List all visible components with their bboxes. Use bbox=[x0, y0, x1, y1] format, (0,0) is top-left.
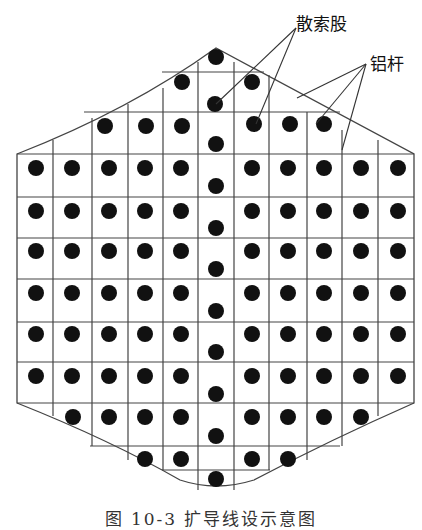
strand-dot bbox=[208, 261, 224, 277]
strand-dot bbox=[390, 285, 406, 301]
strand-dot bbox=[138, 118, 154, 134]
strand-dot bbox=[353, 243, 369, 259]
strand-dot bbox=[316, 160, 332, 176]
strand-dot bbox=[244, 203, 260, 219]
strand-dot bbox=[208, 49, 224, 65]
strand-dot bbox=[137, 285, 153, 301]
strand-dot bbox=[101, 409, 117, 425]
strand-dot bbox=[353, 368, 369, 384]
strand-dot bbox=[173, 243, 189, 259]
strand-dot bbox=[208, 428, 224, 444]
strand-dot bbox=[280, 285, 296, 301]
strand-dot bbox=[390, 160, 406, 176]
strand-dot bbox=[390, 326, 406, 342]
strand-dot bbox=[137, 368, 153, 384]
strand-dot bbox=[316, 326, 332, 342]
strand-dot bbox=[208, 303, 224, 319]
strand-dot bbox=[390, 243, 406, 259]
strand-dot bbox=[28, 285, 44, 301]
figure-caption: 图 10-3 扩导线设示意图 bbox=[0, 505, 422, 530]
strand-dot bbox=[280, 160, 296, 176]
strand-dot bbox=[64, 368, 80, 384]
strand-dot bbox=[174, 118, 190, 134]
strand-dot bbox=[280, 451, 296, 467]
wire-strands bbox=[28, 49, 406, 487]
strand-dot bbox=[28, 368, 44, 384]
leader-rod-1 bbox=[297, 64, 366, 98]
strand-dot bbox=[353, 285, 369, 301]
conductor-cross-section-diagram bbox=[0, 0, 422, 500]
strand-dot bbox=[244, 74, 260, 90]
leader-strand-1 bbox=[216, 28, 296, 104]
strand-dot bbox=[353, 160, 369, 176]
strand-dot bbox=[173, 203, 189, 219]
strand-dot bbox=[173, 160, 189, 176]
strand-dot bbox=[390, 368, 406, 384]
strand-dot bbox=[101, 326, 117, 342]
strand-dot bbox=[280, 409, 296, 425]
strand-dot bbox=[353, 203, 369, 219]
strand-dot bbox=[174, 74, 190, 90]
strand-dot bbox=[101, 368, 117, 384]
strand-dot bbox=[208, 386, 224, 402]
strand-dot bbox=[244, 409, 260, 425]
strand-dot bbox=[244, 451, 260, 467]
strand-dot bbox=[208, 471, 224, 487]
strand-dot bbox=[101, 285, 117, 301]
strand-dot bbox=[64, 285, 80, 301]
strand-dot bbox=[64, 326, 80, 342]
strand-dot bbox=[390, 203, 406, 219]
strand-dot bbox=[173, 326, 189, 342]
strand-dot bbox=[64, 243, 80, 259]
strand-dot bbox=[244, 285, 260, 301]
strand-dot bbox=[28, 203, 44, 219]
strand-dot bbox=[316, 203, 332, 219]
strand-dot bbox=[101, 243, 117, 259]
strand-dot bbox=[101, 160, 117, 176]
strand-dot bbox=[97, 118, 113, 134]
strand-dot bbox=[208, 344, 224, 360]
strand-dot bbox=[137, 326, 153, 342]
strand-dot bbox=[208, 220, 224, 236]
strand-dot bbox=[64, 203, 80, 219]
strand-dot bbox=[137, 160, 153, 176]
strand-dot bbox=[316, 116, 332, 132]
strand-dot bbox=[173, 285, 189, 301]
strand-dot bbox=[282, 116, 298, 132]
strand-dot bbox=[65, 409, 81, 425]
strand-dot bbox=[244, 368, 260, 384]
strand-dot bbox=[173, 451, 189, 467]
strand-dot bbox=[244, 243, 260, 259]
strand-dot bbox=[137, 243, 153, 259]
strand-dot bbox=[280, 326, 296, 342]
strand-dot bbox=[207, 96, 223, 112]
strand-dot bbox=[316, 368, 332, 384]
strand-dot bbox=[208, 178, 224, 194]
strand-dot bbox=[353, 326, 369, 342]
strand-dot bbox=[316, 409, 332, 425]
strand-dot bbox=[280, 368, 296, 384]
strand-dot bbox=[244, 160, 260, 176]
strand-dot bbox=[208, 136, 224, 152]
strand-dot bbox=[137, 409, 153, 425]
strand-dot bbox=[137, 451, 153, 467]
leader-strand-2 bbox=[256, 28, 296, 124]
strand-dot bbox=[280, 243, 296, 259]
strand-dot bbox=[280, 203, 296, 219]
strand-dot bbox=[244, 326, 260, 342]
label-strand: 散索股 bbox=[296, 10, 347, 35]
strand-dot bbox=[316, 285, 332, 301]
leader-rod-3 bbox=[342, 64, 366, 150]
strand-dot bbox=[64, 160, 80, 176]
strand-dot bbox=[246, 116, 262, 132]
strand-dot bbox=[28, 160, 44, 176]
label-rod: 铝杆 bbox=[370, 50, 404, 75]
strand-dot bbox=[353, 409, 369, 425]
strand-dot bbox=[173, 368, 189, 384]
strand-dot bbox=[101, 203, 117, 219]
strand-dot bbox=[28, 326, 44, 342]
strand-dot bbox=[137, 203, 153, 219]
strand-dot bbox=[173, 409, 189, 425]
strand-dot bbox=[316, 243, 332, 259]
strand-dot bbox=[28, 243, 44, 259]
